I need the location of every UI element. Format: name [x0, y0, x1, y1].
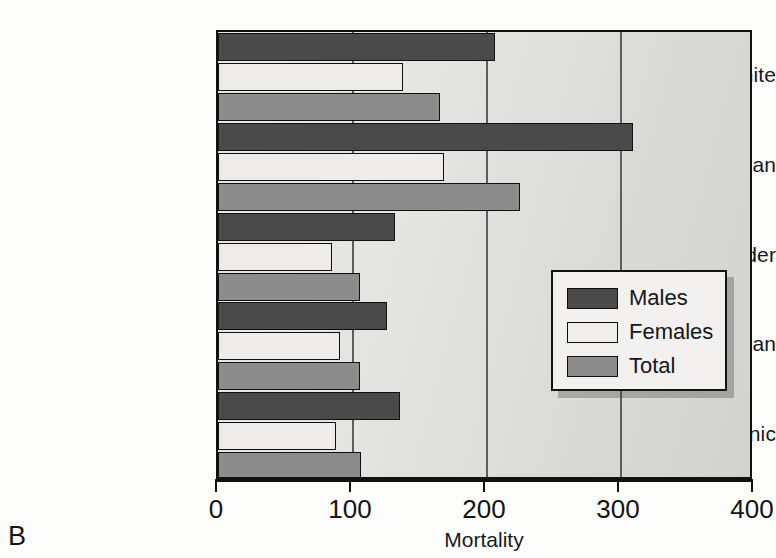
bar-males-white: [218, 33, 495, 61]
bar-males-hispanic: [218, 392, 400, 420]
gridline-200: [486, 32, 488, 477]
x-tick-label-200: 200: [462, 494, 505, 525]
bar-total-hispanic: [218, 452, 361, 479]
bar-total-white: [218, 93, 440, 121]
bar-females-hispanic: [218, 422, 336, 450]
x-axis-title: Mortality: [216, 528, 752, 552]
x-tick-label-0: 0: [209, 494, 223, 525]
x-tick-100: [349, 479, 352, 492]
legend-item-total: Total: [567, 353, 675, 379]
bar-males-african-american: [218, 123, 633, 151]
bar-females-white: [218, 63, 403, 91]
x-tick-label-100: 100: [328, 494, 371, 525]
legend-label-females: Females: [629, 319, 713, 345]
legend-swatch-total-icon: [567, 356, 618, 377]
gridline-300: [620, 32, 622, 477]
x-tick-200: [483, 479, 486, 492]
bar-total-asian-pacific-islander: [218, 273, 360, 301]
legend-swatch-females-icon: [567, 322, 618, 343]
legend-label-total: Total: [629, 353, 675, 379]
bar-males-american-indian: [218, 302, 387, 330]
plot-area: [216, 30, 752, 479]
bar-females-asian-pacific-islander: [218, 243, 332, 271]
bar-males-asian-pacific-islander: [218, 213, 395, 241]
x-tick-label-400: 400: [730, 494, 773, 525]
legend-label-males: Males: [629, 285, 688, 311]
bar-total-american-indian: [218, 362, 360, 390]
mortality-bar-chart-figure: WhiteAfrican AmericanAsian/Pacific Islan…: [0, 0, 776, 558]
x-tick-label-300: 300: [596, 494, 639, 525]
legend-swatch-males-icon: [567, 288, 618, 309]
bar-females-african-american: [218, 153, 444, 181]
x-tick-300: [617, 479, 620, 492]
legend-item-males: Males: [567, 285, 688, 311]
x-tick-0: [215, 479, 218, 492]
x-tick-400: [751, 479, 754, 492]
chart-legend: MalesFemalesTotal: [551, 270, 727, 391]
bar-total-african-american: [218, 183, 520, 211]
bar-females-american-indian: [218, 332, 340, 360]
legend-item-females: Females: [567, 319, 713, 345]
panel-letter: B: [8, 521, 26, 552]
